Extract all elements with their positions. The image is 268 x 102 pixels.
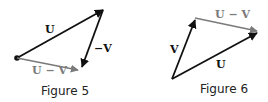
- label-u-minus-v: U − V: [215, 9, 250, 20]
- vector-u: [17, 10, 103, 58]
- figure-5-caption: Figure 5: [41, 85, 89, 97]
- label-u: U: [45, 24, 55, 35]
- figure-6-caption: Figure 6: [200, 83, 248, 95]
- vector-neg-v: [82, 10, 103, 67]
- figure-6-diagram: [172, 18, 257, 79]
- label-u-minus-v: U − V: [32, 65, 67, 76]
- vector-figures: U −V U − V Figure 5 V U − V U Figure 6: [0, 0, 268, 102]
- vector-u: [172, 33, 257, 79]
- label-neg-v: −V: [94, 43, 112, 54]
- label-v: V: [170, 44, 179, 55]
- label-u: U: [216, 59, 226, 70]
- figure-5-diagram: [14, 10, 103, 70]
